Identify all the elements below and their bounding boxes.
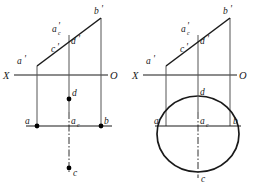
left-label-d-prime: d — [71, 36, 76, 46]
right-label-b-prime: b — [223, 6, 228, 16]
right-label-a-prime-tick: ' — [153, 54, 156, 64]
right-label-ac-prime: a — [181, 24, 186, 34]
left-label-a: a — [25, 116, 30, 126]
left-label-d-prime-tick: ' — [78, 34, 81, 44]
right-label-d-prime-tick: ' — [207, 34, 210, 44]
right-label-ac-sub: c — [206, 122, 209, 128]
left-point-a — [35, 124, 40, 129]
left-label-a-prime-tick: ' — [24, 54, 27, 64]
right-label-b-prime-tick: ' — [230, 4, 233, 14]
projection-figure: a ' a c ' b ' c ' d ' X O d a a c b c — [0, 0, 254, 185]
left-label-b-prime: b — [94, 6, 99, 16]
right-label-d-prime: d — [200, 36, 205, 46]
right-label-a-prime: a — [146, 56, 151, 66]
left-label-axis-x: X — [2, 70, 10, 81]
left-label-b: b — [104, 116, 109, 126]
left-projection-diagram: a ' a c ' b ' c ' d ' X O d a a c b c — [2, 4, 118, 178]
right-label-b: b — [233, 116, 238, 126]
left-label-ac-prime: a — [52, 24, 57, 34]
left-label-axis-o: O — [110, 70, 118, 81]
left-label-ac-sub: c — [77, 122, 80, 128]
left-label-ac: a — [71, 116, 76, 126]
left-label-c: c — [73, 168, 78, 178]
right-label-c: c — [201, 174, 206, 184]
left-label-d: d — [72, 88, 77, 98]
right-label-axis-x: X — [131, 70, 139, 81]
right-projection-diagram: a ' a c ' b ' c ' d ' X O d a a c b c — [131, 4, 247, 184]
left-point-c — [67, 166, 72, 171]
right-label-ac: a — [200, 116, 205, 126]
right-label-a: a — [154, 116, 159, 126]
right-label-axis-o: O — [239, 70, 247, 81]
left-label-a-prime: a — [17, 56, 22, 66]
left-point-d — [67, 97, 72, 102]
left-label-b-prime-tick: ' — [101, 4, 104, 14]
right-label-c-prime-tick: ' — [186, 42, 189, 52]
left-point-b — [99, 124, 104, 129]
left-label-c-prime-tick: ' — [57, 42, 60, 52]
figure-root: a ' a c ' b ' c ' d ' X O d a a c b c — [0, 0, 254, 185]
right-label-d: d — [200, 87, 205, 97]
